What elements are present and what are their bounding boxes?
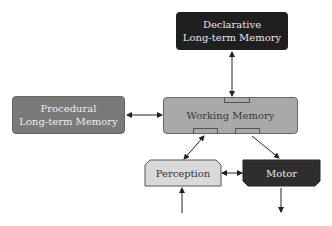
declarative-line2: Long-term Memory (183, 31, 281, 44)
declarative-memory-node: Declarative Long-term Memory (176, 12, 288, 50)
motor-node: Motor (243, 160, 320, 186)
declarative-line1: Declarative (203, 18, 261, 31)
working-memory-node: Working Memory (163, 97, 298, 134)
perception-node: Perception (145, 160, 221, 186)
perception-label: Perception (156, 167, 211, 180)
declarative-buffer (224, 97, 250, 103)
edge-working-perception (184, 136, 204, 159)
edge-working-motor (252, 136, 279, 158)
working-memory-label: Working Memory (187, 109, 275, 122)
perception-buffer (193, 128, 218, 134)
procedural-line2: Long-term Memory (19, 115, 117, 128)
motor-buffer (235, 128, 260, 134)
procedural-line1: Procedural (41, 102, 97, 115)
motor-label: Motor (266, 167, 297, 180)
procedural-memory-node: Procedural Long-term Memory (12, 96, 125, 134)
